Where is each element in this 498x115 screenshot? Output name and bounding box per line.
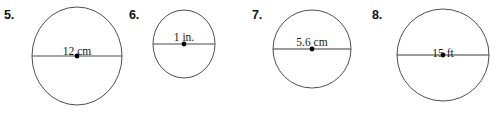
problem-item: 6. 1 in. <box>128 0 250 115</box>
diameter-label-8: 15 ft <box>432 47 453 59</box>
problem-number-7: 7. <box>252 8 262 22</box>
diameter-label-7: 5.6 cm <box>296 36 327 48</box>
problem-number-5: 5. <box>4 8 14 22</box>
problem-item: 5. 12 cm <box>0 0 128 115</box>
problem-number-8: 8. <box>372 8 382 22</box>
circle-figure-7 <box>272 9 354 91</box>
problem-item: 8. 15 ft <box>370 0 498 115</box>
problem-item: 7. 5.6 cm <box>250 0 370 115</box>
circle-figure-6 <box>152 9 220 81</box>
worksheet-canvas: 5. 12 cm 6. 1 in. 7. <box>0 0 498 115</box>
problem-number-6: 6. <box>129 8 139 22</box>
diameter-label-5: 12 cm <box>63 45 91 57</box>
diameter-label-6: 1 in. <box>174 31 194 43</box>
